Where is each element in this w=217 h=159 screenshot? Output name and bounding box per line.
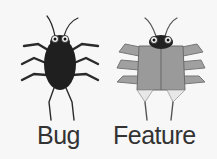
feature-label: Feature (113, 121, 196, 150)
bug-label: Bug (37, 121, 80, 150)
bug-figure (0, 0, 110, 130)
feature-figure (107, 0, 217, 130)
